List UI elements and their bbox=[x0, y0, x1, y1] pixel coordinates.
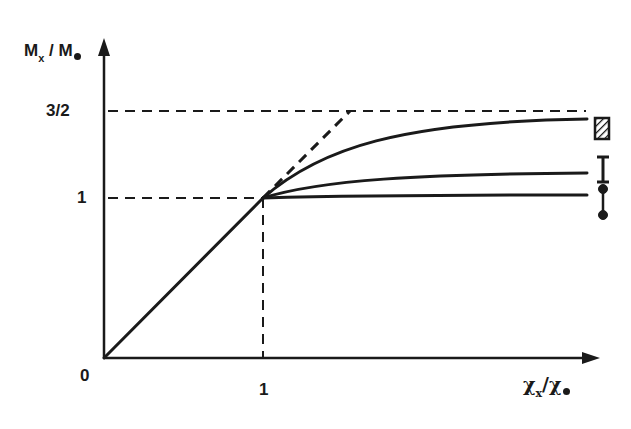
y-label-main: M bbox=[24, 41, 38, 60]
x-axis-label: χx/χ bbox=[523, 375, 570, 394]
y-label-sub: x bbox=[38, 52, 44, 64]
y-tick-1: 1 bbox=[77, 189, 86, 206]
y-label-sep: / bbox=[44, 41, 58, 60]
hatched-rectangle-marker bbox=[595, 118, 609, 139]
x-label-sub: x bbox=[536, 387, 543, 400]
x-label-sep: / bbox=[542, 373, 549, 395]
chart-canvas bbox=[0, 0, 631, 429]
initial-linear-segment bbox=[104, 198, 263, 358]
y-tick-3-2: 3/2 bbox=[46, 102, 70, 119]
y-label-denom: M bbox=[58, 41, 72, 60]
x-axis bbox=[104, 352, 600, 364]
curves bbox=[104, 119, 587, 358]
x-label-denom: χ bbox=[549, 373, 562, 395]
lower-curve bbox=[263, 195, 587, 198]
reference-lines bbox=[108, 111, 586, 358]
x-label-main: χ bbox=[523, 373, 536, 395]
i-bar-marker bbox=[597, 157, 609, 182]
y-label-dot bbox=[74, 53, 81, 60]
y-axis-label: Mx / M bbox=[24, 42, 81, 59]
origin-label: 0 bbox=[80, 367, 89, 384]
dumbbell-marker bbox=[599, 185, 608, 220]
x-label-dot bbox=[563, 388, 570, 395]
x-tick-1: 1 bbox=[259, 381, 268, 398]
